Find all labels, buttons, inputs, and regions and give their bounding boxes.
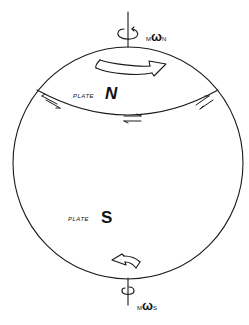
- south-plate-motion-arrow: [112, 254, 140, 268]
- shear-arrows-right: [196, 96, 213, 109]
- plate-n-prefix: PLATE: [73, 93, 94, 99]
- sphere-diagram: [0, 0, 249, 325]
- omega-n-symbol: ω: [151, 29, 162, 44]
- omega-n-subscript: N: [162, 36, 166, 42]
- sphere-outline: [13, 47, 243, 279]
- omega-s-subscript: S: [153, 305, 157, 311]
- north-plate-motion-arrow: [96, 60, 166, 76]
- shear-arrows-left: [42, 94, 60, 108]
- plate-boundary: [37, 90, 218, 115]
- omega-n-label: MωN: [146, 28, 166, 44]
- diagram-canvas: MωN PLATE N PLATE S MωS: [0, 0, 249, 325]
- plate-s-name: S: [101, 209, 112, 226]
- plate-n-name: N: [105, 85, 117, 102]
- plate-s-prefix: PLATE: [68, 216, 89, 222]
- omega-s-label: MωS: [137, 297, 157, 313]
- omega-s-symbol: ω: [142, 298, 153, 313]
